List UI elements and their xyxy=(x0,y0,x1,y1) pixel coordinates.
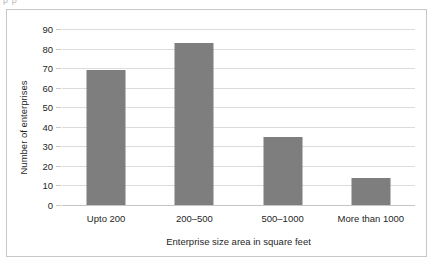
bar xyxy=(263,137,302,205)
x-axis-tick-label: Upto 200 xyxy=(87,213,126,224)
y-axis-tick xyxy=(56,185,61,186)
x-axis-title: Enterprise size area in square feet xyxy=(62,236,415,247)
y-axis-tick-label: 40 xyxy=(42,121,53,132)
y-axis-title: Number of enterprises xyxy=(17,62,31,192)
bar-series: Upto 200200–500500–1000More than 1000 xyxy=(62,29,415,205)
x-axis-tick-label: 500–1000 xyxy=(261,213,303,224)
y-axis-tick-label: 10 xyxy=(42,180,53,191)
y-axis-tick-label: 50 xyxy=(42,102,53,113)
y-axis-tick xyxy=(56,166,61,167)
y-axis-tick xyxy=(56,68,61,69)
bar-group: 500–1000 xyxy=(239,29,327,205)
bar-group: More than 1000 xyxy=(327,29,415,205)
x-axis-tick-label: 200–500 xyxy=(176,213,213,224)
clipped-top-text-value: p p xyxy=(3,0,17,5)
x-axis-title-label: Enterprise size area in square feet xyxy=(166,236,311,247)
y-axis-tick-label: 90 xyxy=(42,24,53,35)
y-axis-tick xyxy=(56,146,61,147)
bar xyxy=(175,43,214,205)
bar xyxy=(87,70,126,205)
y-axis-tick xyxy=(56,127,61,128)
y-axis-tick-label: 70 xyxy=(42,63,53,74)
y-axis-title-label: Number of enterprises xyxy=(19,80,30,174)
bar-group: 200–500 xyxy=(150,29,238,205)
bar-group: Upto 200 xyxy=(62,29,150,205)
plot-area: 0102030405060708090 Upto 200200–500500–1… xyxy=(62,29,415,205)
y-axis-tick xyxy=(56,107,61,108)
y-axis-tick-label: 80 xyxy=(42,43,53,54)
y-axis-tick xyxy=(56,29,61,30)
y-axis-tick xyxy=(56,49,61,50)
y-axis-tick-label: 30 xyxy=(42,141,53,152)
y-axis-tick xyxy=(56,88,61,89)
bar xyxy=(351,178,390,205)
x-axis-tick-label: More than 1000 xyxy=(338,213,405,224)
clipped-top-text: p p xyxy=(0,0,435,7)
gridline xyxy=(62,205,415,206)
y-axis-tick-label: 0 xyxy=(48,200,53,211)
y-axis-tick-label: 20 xyxy=(42,160,53,171)
y-axis-tick-label: 60 xyxy=(42,82,53,93)
y-axis-tick xyxy=(56,205,61,206)
